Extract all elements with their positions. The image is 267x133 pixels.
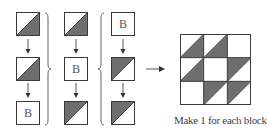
down-arrow-icon <box>119 39 127 55</box>
square-label-b: B <box>65 58 87 80</box>
col2-square3-half-triangle <box>64 101 88 125</box>
caption: Make 1 for each block. <box>174 114 267 126</box>
left-brace-icon <box>97 12 105 126</box>
right-arrow-icon <box>146 65 166 73</box>
col3-square1-plain-b: B <box>111 12 135 36</box>
col2-square1-half-triangle <box>64 12 88 36</box>
col2-square2-plain-b: B <box>64 57 88 81</box>
down-arrow-icon <box>24 39 32 55</box>
col3-square3-half-triangle <box>111 101 135 125</box>
assembled-quilt-block <box>180 34 251 105</box>
right-brace-icon <box>44 12 52 126</box>
col1-square3-plain-b: B <box>16 101 40 125</box>
col1-square2-half-triangle <box>16 57 40 81</box>
down-arrow-icon <box>72 83 80 99</box>
down-arrow-icon <box>24 83 32 99</box>
down-arrow-icon <box>119 83 127 99</box>
square-label-b: B <box>112 13 134 35</box>
down-arrow-icon <box>72 39 80 55</box>
col1-square1-half-triangle <box>16 12 40 36</box>
square-label-b: B <box>17 102 39 124</box>
col3-square2-half-triangle <box>111 57 135 81</box>
